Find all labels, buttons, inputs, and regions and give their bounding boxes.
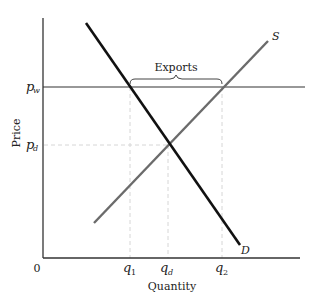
supply-demand-export-chart: Exports S D p w p d 0 q 1 q d q 2 Quanti… [0,0,316,307]
pw-tick-label: p w [26,79,40,95]
svg-text:1: 1 [131,268,136,277]
svg-text:2: 2 [223,268,228,277]
svg-text:w: w [33,86,40,95]
guide-lines [44,87,222,258]
supply-label: S [272,30,280,43]
q1-tick-label: q 1 [123,260,136,277]
pd-tick-label: p d [26,137,38,153]
svg-text:d: d [33,144,38,153]
y-axis-title: Price [10,119,23,148]
x-axis-title: Quantity [148,280,197,293]
qd-tick-label: q d [160,260,173,277]
demand-curve [86,23,240,245]
q2-tick-label: q 2 [215,260,228,277]
exports-label: Exports [154,61,198,74]
demand-label: D [240,244,250,257]
exports-brace [130,75,222,84]
svg-text:d: d [168,268,173,277]
origin-label: 0 [34,262,41,275]
